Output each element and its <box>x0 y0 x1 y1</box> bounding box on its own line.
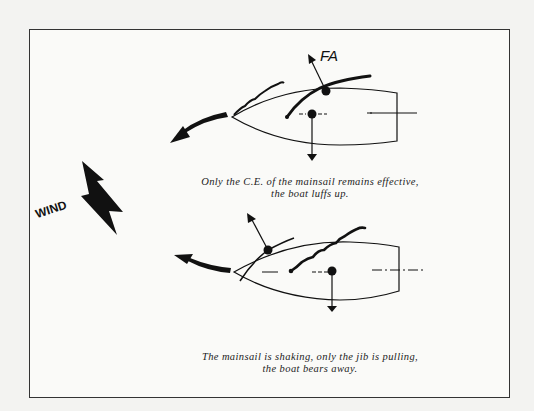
bottom-force-arrowhead <box>247 213 256 223</box>
top-mainsail <box>287 76 370 117</box>
bottom-turn-arrow <box>188 258 231 273</box>
top-caption-line2: the boat luffs up. <box>160 188 460 200</box>
bottom-lateral-arrowhead <box>327 306 337 312</box>
bottom-caption-line1: The mainsail is shaking, only the jib is… <box>160 351 460 363</box>
sailing-diagram <box>0 0 534 411</box>
top-boat-group <box>170 54 417 161</box>
top-mainsail-tack <box>285 115 289 119</box>
top-turn-arrow <box>182 112 228 133</box>
top-caption-line1: Only the C.E. of the mainsail remains ef… <box>160 176 460 188</box>
bottom-caption: The mainsail is shaking, only the jib is… <box>160 351 460 375</box>
bottom-caption-line2: the boat bears away. <box>160 363 460 375</box>
top-jib-shaking <box>234 82 284 115</box>
bottom-jib <box>240 238 294 281</box>
bottom-hull <box>234 242 399 300</box>
top-caption: Only the C.E. of the mainsail remains ef… <box>160 176 460 200</box>
wind-arrow-icon <box>81 161 123 235</box>
top-lateral-arrowhead <box>307 154 317 161</box>
bottom-boat-group <box>174 213 426 312</box>
bottom-mainsail-tack <box>289 269 294 274</box>
top-fa-vector <box>311 60 326 91</box>
force-label: FA <box>320 47 338 64</box>
bottom-mainsail-shaking <box>291 228 365 271</box>
bottom-force-vector <box>251 218 268 250</box>
